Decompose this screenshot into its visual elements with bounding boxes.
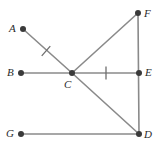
segment-CD — [72, 73, 139, 134]
segment-AC — [23, 29, 72, 73]
geometry-canvas — [0, 0, 159, 157]
vertex-label-E: E — [145, 67, 152, 78]
point-G — [18, 131, 24, 137]
point-F — [135, 10, 141, 16]
vertex-label-A: A — [9, 23, 16, 34]
point-C — [69, 70, 75, 76]
vertex-label-F: F — [144, 8, 151, 19]
vertex-label-C: C — [64, 79, 71, 90]
geometry-figure: ABCDEFG — [0, 0, 159, 157]
vertex-label-B: B — [7, 67, 14, 78]
vertex-label-D: D — [144, 129, 152, 140]
point-D — [136, 131, 142, 137]
segment-CF — [72, 13, 138, 73]
point-A — [20, 26, 26, 32]
point-E — [136, 70, 142, 76]
vertex-label-G: G — [6, 128, 14, 139]
segments-group — [21, 13, 139, 134]
point-B — [18, 70, 24, 76]
